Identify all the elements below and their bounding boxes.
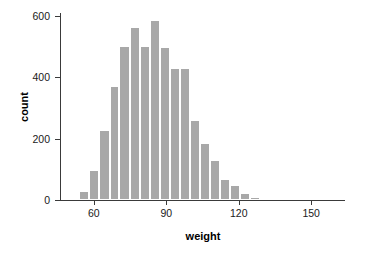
histogram-bar — [180, 68, 190, 200]
y-axis-tick — [55, 200, 60, 201]
y-axis-line — [60, 13, 61, 200]
histogram-bar — [200, 143, 210, 200]
x-axis-title: weight — [186, 230, 221, 242]
x-axis-tick — [239, 200, 240, 205]
histogram-bar — [210, 160, 220, 200]
histogram-bar — [89, 170, 99, 200]
x-axis-tick-label: 90 — [160, 207, 172, 219]
plot-area — [60, 8, 345, 200]
histogram-figure: 6090120150 0200400600 weight count — [0, 0, 365, 257]
y-axis-title: count — [18, 92, 30, 122]
histogram-bar — [150, 20, 160, 200]
histogram-bar — [130, 27, 140, 200]
histogram-bar — [110, 86, 120, 200]
histogram-bar — [140, 46, 150, 200]
y-axis-tick-label: 0 — [44, 194, 50, 206]
y-axis-tick — [55, 77, 60, 78]
y-axis-tick — [55, 16, 60, 17]
histogram-bar — [230, 185, 240, 200]
x-axis-tick — [166, 200, 167, 205]
x-axis-tick-label: 120 — [230, 207, 248, 219]
y-axis-tick — [55, 139, 60, 140]
histogram-bar — [220, 179, 230, 200]
histogram-bar — [99, 130, 109, 200]
x-axis-tick-label: 60 — [88, 207, 100, 219]
y-axis-tick-label: 600 — [32, 10, 50, 22]
histogram-bar — [170, 68, 180, 200]
y-axis-tick-label: 400 — [32, 71, 50, 83]
histogram-bar — [119, 46, 129, 200]
bars-layer — [60, 8, 345, 200]
histogram-bar — [160, 47, 170, 200]
y-axis-tick-label: 200 — [32, 133, 50, 145]
x-axis-tick — [94, 200, 95, 205]
x-axis-tick — [311, 200, 312, 205]
x-axis-line — [60, 200, 345, 201]
x-axis-tick-label: 150 — [302, 207, 320, 219]
histogram-bar — [190, 120, 200, 200]
